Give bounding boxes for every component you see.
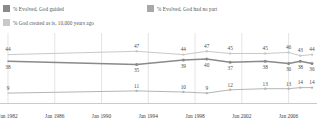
data-point-marker	[299, 86, 301, 88]
x-tick-label: Jan 2002	[232, 113, 251, 120]
data-point-label: 14	[309, 79, 315, 85]
x-tick-label: Jan 1994	[139, 113, 158, 120]
data-point-label: 39	[181, 63, 187, 69]
data-point-label: 10	[181, 84, 187, 90]
legend-label-evolved-god-no-part: % Evolved, God had no part	[157, 6, 217, 12]
data-point-marker	[287, 51, 289, 53]
data-point-label: 45	[228, 45, 234, 51]
data-point-marker	[229, 89, 231, 91]
data-point-marker	[264, 52, 266, 54]
data-point-marker	[206, 92, 208, 94]
x-tick-label: Jan 1986	[45, 113, 64, 120]
data-point-marker	[182, 91, 184, 93]
data-point-label: 44	[181, 46, 187, 52]
data-point-label: 36	[286, 66, 292, 72]
legend-item-evolved-god-guided[interactable]: % Evolved, God guided	[3, 5, 64, 12]
series-line	[8, 88, 312, 94]
data-point-label: 13	[263, 81, 269, 87]
x-tick-label: Jan 2006	[279, 113, 298, 120]
data-point-marker	[287, 88, 289, 90]
data-point-label: 9	[205, 85, 208, 91]
data-point-marker	[135, 50, 137, 52]
data-point-marker	[229, 61, 232, 64]
data-point-marker	[311, 86, 313, 88]
chart-x-axis: Jan 1982Jan 1986Jan 1990Jan 1994Jan 1998…	[0, 110, 317, 132]
data-point-label: 45	[263, 45, 269, 51]
data-point-marker	[182, 53, 184, 55]
legend-swatch-god-created-as-is	[3, 19, 10, 26]
legend-swatch-evolved-god-no-part	[147, 5, 154, 12]
data-point-label: 36	[309, 66, 315, 72]
data-point-label: 14	[298, 79, 304, 85]
data-point-label: 40	[204, 62, 210, 68]
data-point-label: 12	[228, 82, 234, 88]
data-point-label: 38	[5, 64, 11, 70]
legend-item-god-created-as-is[interactable]: % God created as is, 10,000 years ago	[3, 19, 94, 26]
data-point-label: 43	[298, 47, 304, 53]
data-point-marker	[206, 50, 208, 52]
chart-legend: % Evolved, God guided % Evolved, God had…	[0, 0, 317, 30]
data-point-marker	[264, 88, 266, 90]
data-point-marker	[287, 62, 290, 65]
legend-swatch-evolved-god-guided	[3, 5, 10, 12]
data-point-label: 9	[7, 85, 10, 91]
data-point-label: 46	[286, 44, 292, 50]
data-point-marker	[311, 53, 313, 55]
legend-label-god-created-as-is: % God created as is, 10,000 years ago	[13, 20, 94, 26]
data-point-label: 37	[228, 65, 234, 71]
data-point-label: 35	[134, 67, 140, 73]
chart-svg: 4447444745454643443835394037383638369111…	[0, 33, 317, 109]
data-point-marker	[264, 60, 267, 63]
data-point-marker	[299, 55, 301, 57]
chart-plot-area: 4447444745454643443835394037383638369111…	[0, 33, 317, 109]
legend-item-evolved-god-no-part[interactable]: % Evolved, God had no part	[147, 5, 217, 12]
data-point-marker	[311, 62, 314, 65]
data-point-label: 11	[134, 83, 139, 89]
data-point-label: 47	[134, 43, 140, 49]
data-point-marker	[182, 59, 185, 62]
data-point-label: 38	[298, 64, 304, 70]
legend-label-evolved-god-guided: % Evolved, God guided	[13, 6, 64, 12]
data-point-marker	[229, 52, 231, 54]
x-tick-label: Jan 1982	[0, 113, 18, 120]
data-point-marker	[205, 58, 208, 61]
data-point-label: 44	[309, 46, 315, 52]
data-point-marker	[135, 90, 137, 92]
x-tick-label: Jan 1990	[92, 113, 111, 120]
data-point-marker	[299, 60, 302, 63]
data-point-label: 47	[204, 43, 210, 49]
chart-root: % Evolved, God guided % Evolved, God had…	[0, 0, 317, 132]
data-point-label: 38	[263, 64, 269, 70]
data-point-marker	[135, 63, 138, 66]
data-point-label: 44	[5, 46, 11, 52]
data-point-label: 13	[286, 81, 292, 87]
x-tick-label: Jan 1998	[185, 113, 204, 120]
